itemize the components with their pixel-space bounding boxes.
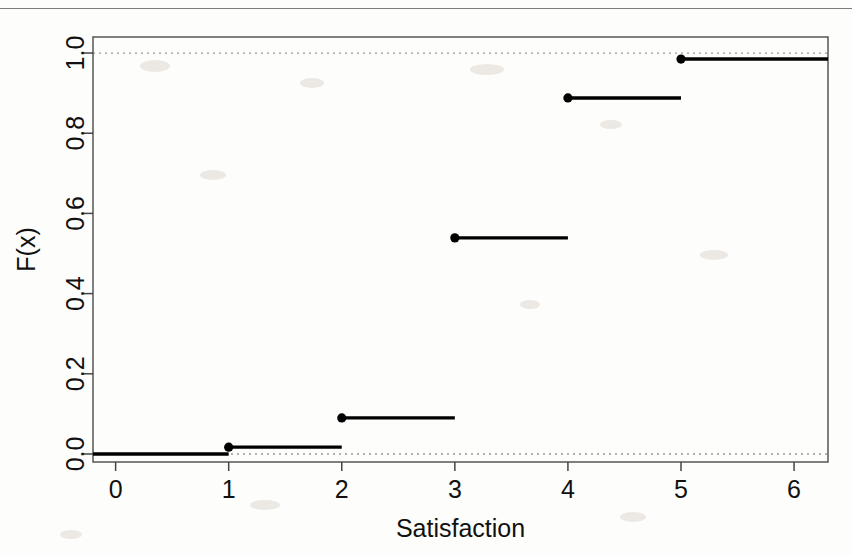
y-tick-label: 0.8 (61, 116, 89, 151)
step-point (337, 413, 346, 422)
plot-frame (93, 37, 828, 462)
figure-page: 0.00.20.40.60.81.00123456SatisfactionF(x… (0, 0, 852, 555)
x-axis-label: Satisfaction (396, 514, 525, 542)
y-tick-label: 0.0 (61, 437, 89, 472)
x-tick-label: 5 (674, 475, 688, 503)
y-tick-label: 1.0 (61, 36, 89, 71)
step-point (450, 233, 459, 242)
x-tick-label: 1 (222, 475, 236, 503)
step-point (224, 443, 233, 452)
x-tick-label: 4 (561, 475, 575, 503)
plot-svg: 0.00.20.40.60.81.00123456SatisfactionF(x… (0, 0, 852, 555)
step-point (676, 54, 685, 63)
x-tick-label: 3 (448, 475, 462, 503)
x-tick-label: 0 (109, 475, 123, 503)
y-tick-label: 0.4 (61, 276, 89, 311)
x-tick-label: 6 (787, 475, 801, 503)
y-tick-label: 0.6 (61, 196, 89, 231)
x-tick-label: 2 (335, 475, 349, 503)
y-tick-label: 0.2 (61, 356, 89, 391)
y-axis-label: F(x) (12, 227, 40, 271)
step-point (563, 93, 572, 102)
ecdf-chart: 0.00.20.40.60.81.00123456SatisfactionF(x… (0, 0, 852, 555)
